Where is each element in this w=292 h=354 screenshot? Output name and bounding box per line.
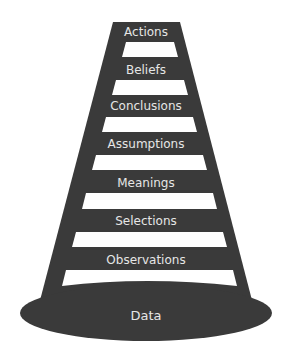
rung-label-selections: Selections xyxy=(115,214,177,228)
rung-label-actions: Actions xyxy=(124,25,168,39)
rung-label-conclusions: Conclusions xyxy=(110,99,182,113)
rung-label-meanings: Meanings xyxy=(117,176,175,190)
rung-label-assumptions: Assumptions xyxy=(108,137,185,151)
ladder-of-inference-diagram: Actions Beliefs Conclusions Assumptions … xyxy=(0,0,292,354)
rung-label-observations: Observations xyxy=(106,253,185,267)
base-label-data: Data xyxy=(130,308,161,323)
rung-label-beliefs: Beliefs xyxy=(126,63,166,77)
